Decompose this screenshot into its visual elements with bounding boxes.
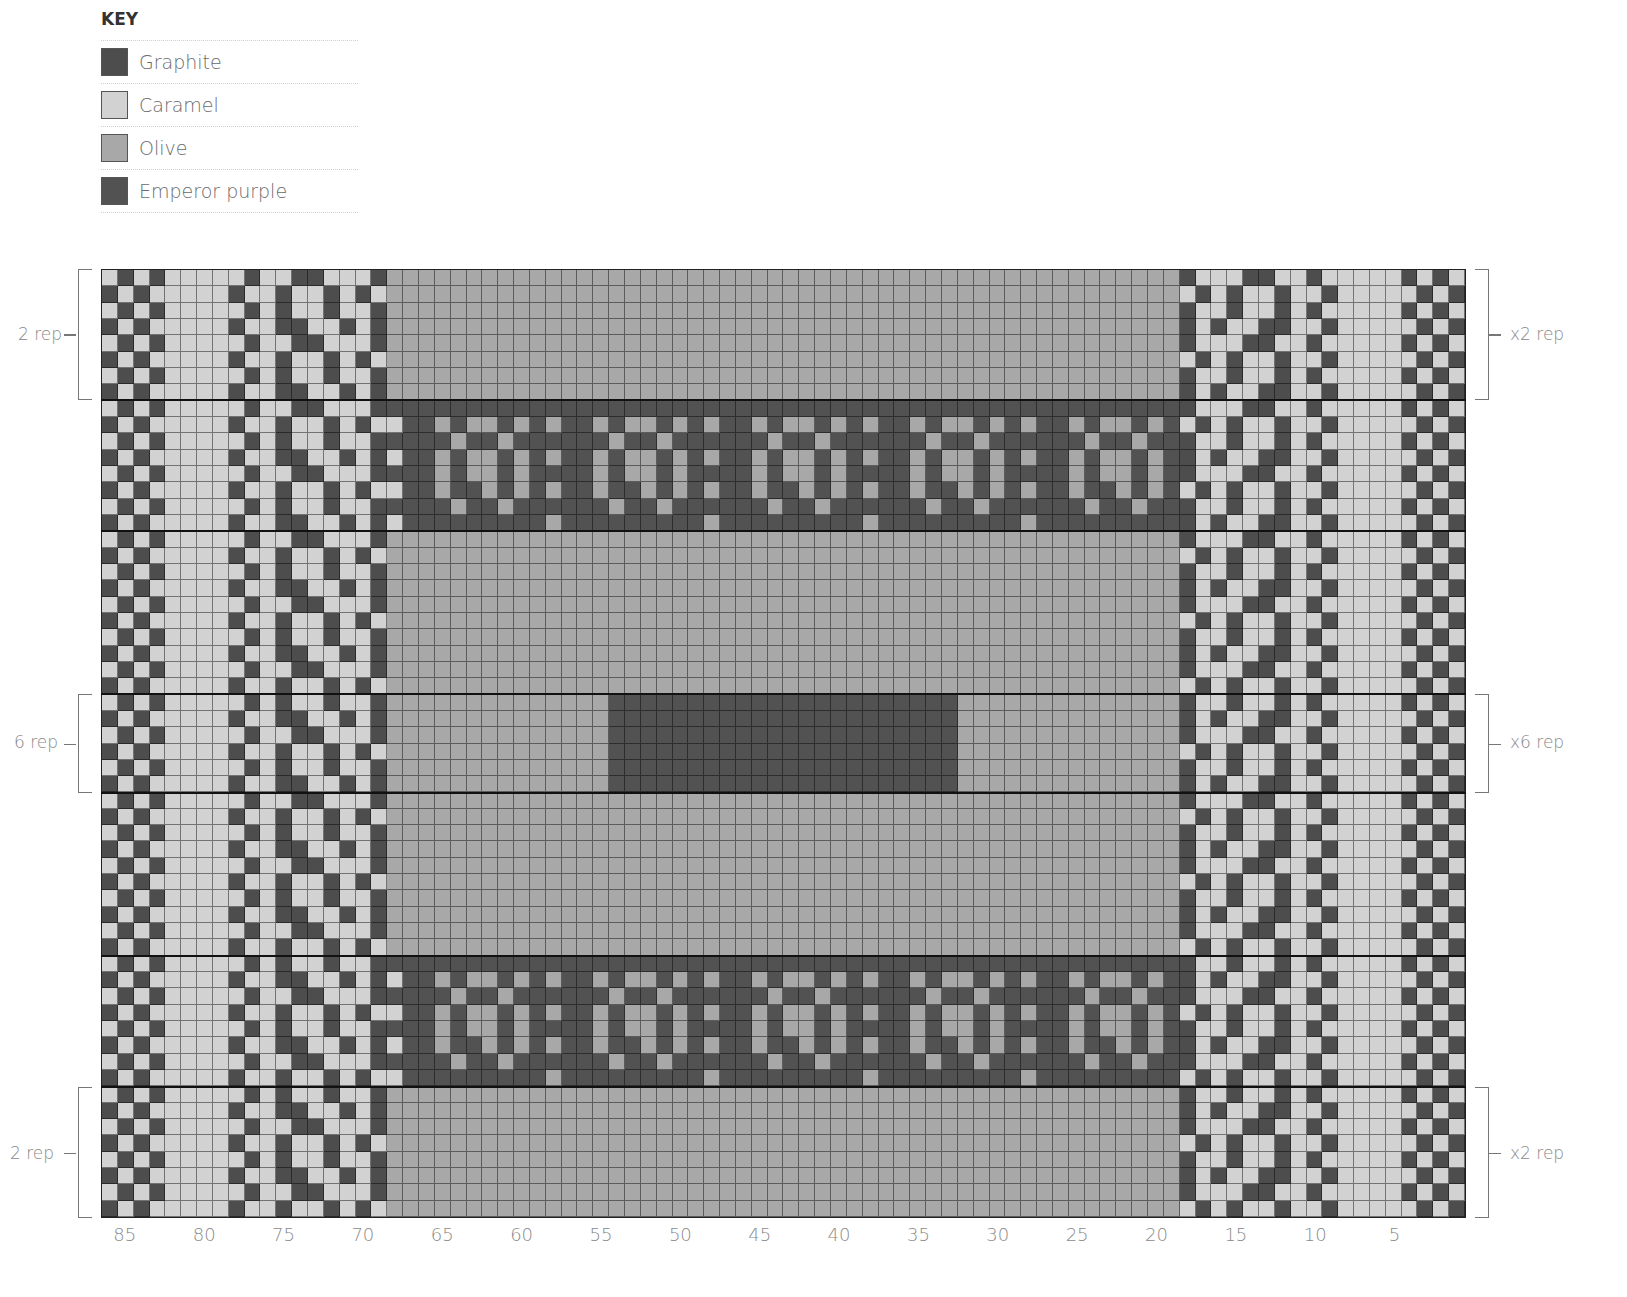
chart-cell (752, 972, 768, 988)
chart-cell (799, 646, 815, 662)
chart-cell (324, 401, 340, 417)
chart-cell (1021, 531, 1037, 547)
chart-cell (1196, 890, 1212, 906)
chart-cell (1259, 792, 1275, 808)
chart-cell (1021, 825, 1037, 841)
chart-cell (641, 417, 657, 433)
chart-cell (245, 629, 261, 645)
chart-cell (847, 352, 863, 368)
chart-cell (783, 662, 799, 678)
chart-cell (1338, 1201, 1354, 1217)
chart-cell (435, 956, 451, 972)
chart-cell (1275, 515, 1291, 531)
chart-cell (165, 303, 181, 319)
chart-cell (593, 319, 609, 335)
chart-cell (451, 744, 467, 760)
chart-cell (609, 825, 625, 841)
chart-cell (1449, 597, 1465, 613)
chart-cell (1132, 809, 1148, 825)
chart-cell (102, 662, 118, 678)
chart-cell (260, 695, 276, 711)
chart-cell (403, 907, 419, 923)
chart-cell (229, 939, 245, 955)
chart-cell (1338, 776, 1354, 792)
chart-cell (673, 841, 689, 857)
chart-cell (1148, 597, 1164, 613)
chart-cell (340, 1103, 356, 1119)
chart-cell (1069, 629, 1085, 645)
chart-cell (990, 760, 1006, 776)
chart-cell (910, 515, 926, 531)
chart-cell (894, 956, 910, 972)
chart-cell (1069, 1037, 1085, 1053)
chart-cell (1386, 711, 1402, 727)
chart-cell (1196, 286, 1212, 302)
chart-cell (974, 825, 990, 841)
chart-cell (609, 744, 625, 760)
chart-cell (371, 499, 387, 515)
chart-cell (736, 629, 752, 645)
chart-cell (1433, 482, 1449, 498)
chart-cell (942, 907, 958, 923)
chart-cell (467, 923, 483, 939)
chart-cell (482, 482, 498, 498)
chart-cell (498, 515, 514, 531)
chart-cell (1053, 1184, 1069, 1200)
chart-cell (245, 972, 261, 988)
chart-cell (609, 956, 625, 972)
chart-cell (1053, 352, 1069, 368)
chart-cell (1021, 580, 1037, 596)
chart-cell (894, 744, 910, 760)
chart-cell (165, 352, 181, 368)
chart-cell (229, 988, 245, 1004)
chart-cell (783, 744, 799, 760)
chart-cell (958, 335, 974, 351)
chart-cell (863, 1119, 879, 1135)
chart-cell (292, 515, 308, 531)
chart-cell (324, 564, 340, 580)
chart-cell (783, 1184, 799, 1200)
chart-cell (752, 401, 768, 417)
chart-cell (673, 1135, 689, 1151)
chart-cell (1085, 809, 1101, 825)
chart-cell (1053, 890, 1069, 906)
chart-cell (1338, 744, 1354, 760)
chart-cell (419, 1103, 435, 1119)
chart-cell (1354, 711, 1370, 727)
chart-cell (1433, 858, 1449, 874)
chart-cell (451, 1135, 467, 1151)
chart-cell (1338, 727, 1354, 743)
chart-cell (831, 678, 847, 694)
chart-cell (467, 597, 483, 613)
chart-cell (1227, 1201, 1243, 1217)
chart-cell (1005, 1184, 1021, 1200)
chart-cell (704, 923, 720, 939)
chart-cell (1148, 629, 1164, 645)
chart-cell (688, 858, 704, 874)
chart-cell (831, 352, 847, 368)
chart-cell (371, 531, 387, 547)
chart-cell (403, 792, 419, 808)
chart-cell (498, 988, 514, 1004)
chart-cell (958, 286, 974, 302)
chart-cell (1227, 548, 1243, 564)
chart-cell (213, 646, 229, 662)
chart-cell (593, 417, 609, 433)
chart-cell (1085, 727, 1101, 743)
chart-cell (482, 531, 498, 547)
chart-cell (1243, 1070, 1259, 1086)
chart-cell (102, 695, 118, 711)
chart-cell (577, 662, 593, 678)
chart-cell (847, 1135, 863, 1151)
chart-cell (990, 466, 1006, 482)
chart-cell (1037, 433, 1053, 449)
chart-cell (688, 499, 704, 515)
chart-cell (736, 841, 752, 857)
chart-cell (974, 662, 990, 678)
chart-cell (1148, 1152, 1164, 1168)
chart-cell (926, 286, 942, 302)
chart-cell (292, 744, 308, 760)
chart-cell (1037, 1201, 1053, 1217)
chart-cell (990, 662, 1006, 678)
chart-cell (197, 776, 213, 792)
